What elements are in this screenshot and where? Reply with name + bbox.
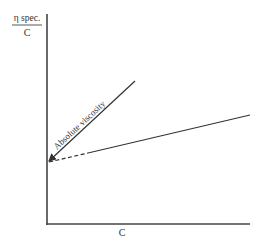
viscosity-diagram: η spec. C C Absolute viscosity — [0, 0, 263, 243]
shallow-line — [88, 115, 250, 153]
absolute-viscosity-arrow-line — [49, 81, 135, 161]
y-axis-label-numerator: η spec. — [14, 13, 41, 23]
x-axis-label: C — [119, 227, 126, 238]
dashed-extrapolation-line — [49, 153, 88, 162]
absolute-viscosity-annotation: Absolute viscosity — [52, 98, 108, 151]
y-axis-label-denominator: C — [24, 27, 31, 38]
